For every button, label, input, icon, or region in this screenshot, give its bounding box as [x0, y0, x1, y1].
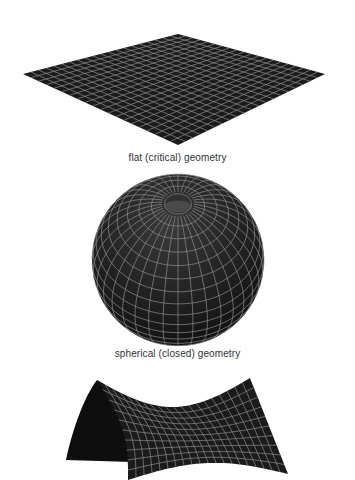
saddle-surface [66, 378, 288, 480]
sphere-pole-highlight [164, 200, 192, 212]
sphere [92, 174, 264, 346]
spherical-geometry-caption: spherical (closed) geometry [0, 348, 355, 359]
saddle-front-surface [97, 378, 288, 480]
flat-geometry-caption: flat (critical) geometry [0, 152, 355, 163]
geometry-figures [0, 0, 355, 480]
flat-plane [23, 34, 325, 145]
